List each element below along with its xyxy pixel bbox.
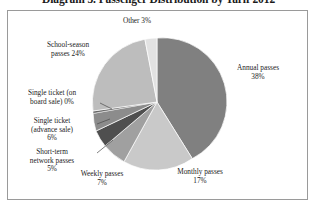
pie-label-weekly-passes: Weekly passes 7% [64, 170, 140, 187]
pie-label-school-season-passes: School-season passes 24% [23, 41, 113, 58]
pie-label-monthly-passes: Monthly passes 17% [152, 168, 248, 185]
pie-label-single-ticket-advance-sale: Single ticket (advance sale) 6% [4, 117, 100, 143]
pie-label-single-ticket-on-board-sale: Single ticket (on board sale) 0% [4, 89, 100, 106]
pie-label-other: Other 3% [107, 17, 167, 26]
pie-label-annual-passes: Annual passes 38% [216, 64, 300, 81]
